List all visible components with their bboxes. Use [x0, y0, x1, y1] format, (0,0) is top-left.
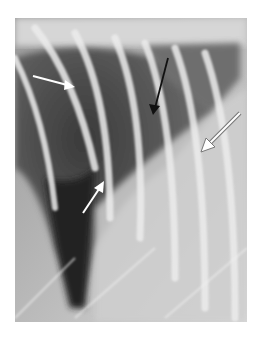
radiograph-image [15, 18, 247, 322]
